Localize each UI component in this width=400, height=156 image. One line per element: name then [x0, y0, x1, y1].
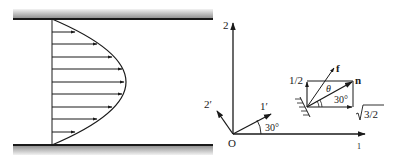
inset-angle-arc	[317, 101, 319, 107]
axis-2-prime-label: 2′	[204, 98, 212, 110]
theta-label: θ	[326, 83, 331, 94]
origin-label: O	[228, 137, 236, 149]
normal-vector-label: n	[355, 74, 361, 86]
force-vector-label: f	[336, 62, 340, 74]
velocity-arrows	[52, 32, 124, 132]
axis-2-label: 2	[223, 19, 229, 31]
figure: 2 1 O 1′ 2′ 30° 1/2	[0, 0, 400, 156]
horizontal-component-label: 3/2	[356, 105, 384, 120]
svg-text:3/2: 3/2	[364, 108, 378, 120]
bottom-wall-band	[13, 145, 213, 155]
vertical-component-label: 1/2	[289, 74, 303, 86]
rotation-angle-label: 30°	[265, 122, 279, 133]
top-wall-band	[13, 9, 213, 19]
rotation-angle-arc	[257, 120, 261, 134]
inset-angle-arc-2	[320, 100, 322, 107]
coordinate-axes-diagram: 2 1 O 1′ 2′ 30°	[204, 19, 365, 151]
axis-1-label: 1	[357, 142, 361, 151]
inset-angle-label: 30°	[334, 94, 348, 105]
force-decomposition-inset: 1/2 3/2 n f θ 30°	[289, 62, 384, 120]
axis-2-prime	[217, 111, 233, 134]
channel-flow-diagram	[13, 9, 213, 155]
axis-1-prime-label: 1′	[260, 100, 268, 112]
